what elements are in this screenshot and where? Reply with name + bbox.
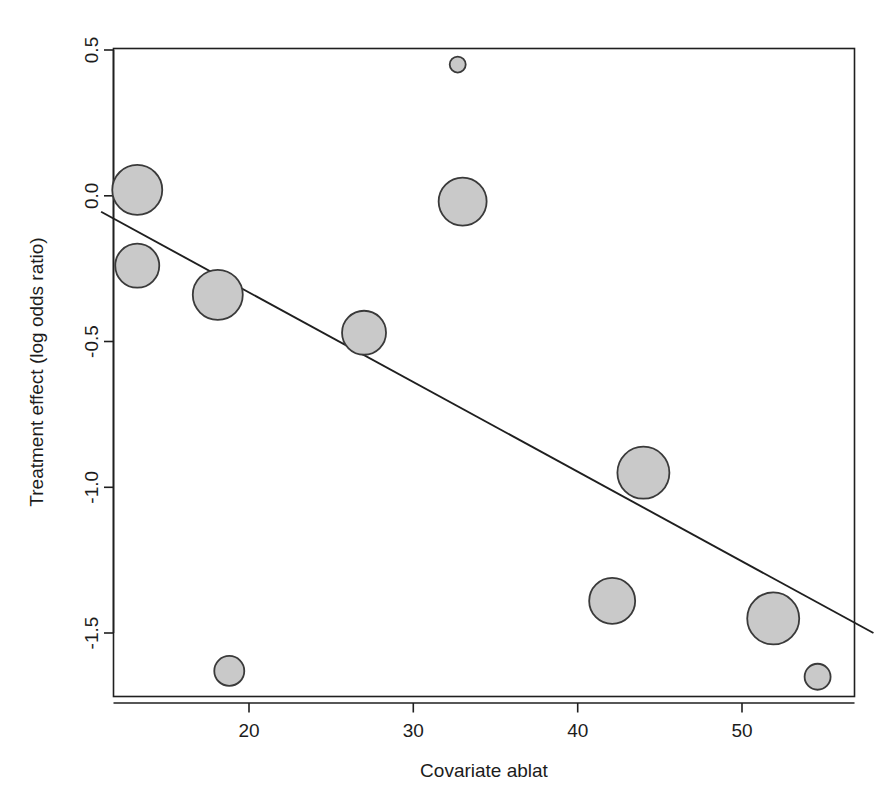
- data-bubble: [342, 311, 386, 355]
- y-tick-label-0: 0.5: [81, 37, 102, 63]
- data-bubble: [193, 270, 243, 320]
- y-tick-label-2: -0.5: [81, 325, 102, 358]
- data-bubble: [617, 447, 669, 499]
- y-tick-label-3: -1.0: [81, 471, 102, 504]
- x-axis-title: Covariate ablat: [420, 760, 549, 781]
- data-bubble: [214, 656, 244, 686]
- bubble-series: [112, 57, 830, 690]
- x-tick-label-0: 20: [238, 720, 259, 741]
- data-bubble: [589, 578, 635, 624]
- data-bubble: [747, 592, 799, 644]
- x-axis: 20 30 40 50: [114, 703, 855, 741]
- x-tick-label-2: 40: [567, 720, 588, 741]
- x-tick-label-1: 30: [403, 720, 424, 741]
- data-bubble: [112, 165, 162, 215]
- data-bubble: [450, 57, 466, 73]
- chart-figure: 0.5 0.0 -0.5 -1.0 -1.5 20 30 40 50 Treat…: [0, 0, 887, 801]
- data-bubble: [115, 244, 159, 288]
- x-tick-label-3: 50: [731, 720, 752, 741]
- y-axis: 0.5 0.0 -0.5 -1.0 -1.5: [81, 37, 113, 650]
- y-tick-label-1: 0.0: [81, 183, 102, 209]
- bubble-chart-canvas: 0.5 0.0 -0.5 -1.0 -1.5 20 30 40 50 Treat…: [0, 0, 887, 801]
- data-bubble: [805, 664, 831, 690]
- y-axis-title: Treatment effect (log odds ratio): [26, 237, 47, 506]
- y-tick-label-4: -1.5: [81, 617, 102, 650]
- data-bubble: [439, 178, 487, 226]
- plot-frame: [114, 49, 855, 697]
